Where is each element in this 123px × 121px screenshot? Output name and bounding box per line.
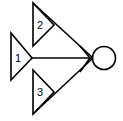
triangle-3-label: 3 [37,86,43,98]
target-circle [93,47,116,70]
diagram-canvas: 1 2 3 [0,0,123,121]
triangle-1: 1 [11,33,32,80]
triangle-2-label: 2 [37,19,43,31]
triangle-3: 3 [33,70,54,114]
triangle-1-label: 1 [15,52,21,64]
triangle-2: 2 [33,3,54,46]
